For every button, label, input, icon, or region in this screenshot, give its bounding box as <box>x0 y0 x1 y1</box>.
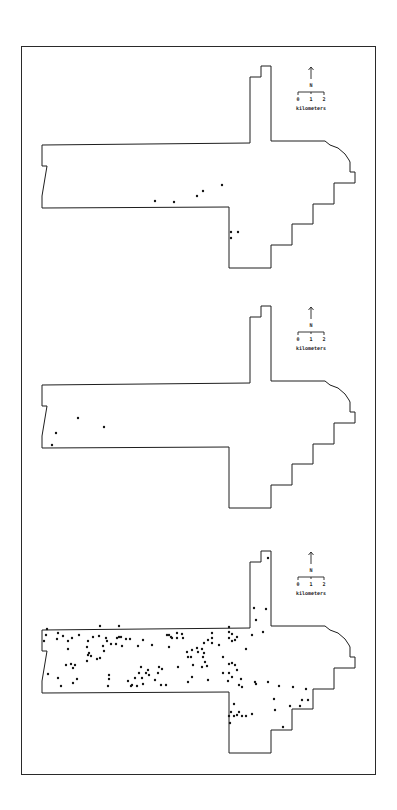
site-dot <box>57 632 59 634</box>
site-dot <box>201 648 203 650</box>
site-dot <box>177 666 179 668</box>
north-arrow-icon <box>309 307 314 319</box>
site-dot <box>222 672 224 674</box>
site-dot <box>201 666 203 668</box>
north-arrow-icon <box>309 552 314 564</box>
north-label: N <box>309 567 312 573</box>
site-dot <box>151 644 153 646</box>
site-dot <box>70 663 72 665</box>
study-area-boundary <box>42 66 355 268</box>
site-dot <box>251 634 253 636</box>
site-dot <box>241 715 243 717</box>
site-dot <box>99 657 101 659</box>
site-dot <box>157 672 159 674</box>
site-dot <box>182 637 184 639</box>
study-area-boundary <box>42 306 355 508</box>
site-dot <box>191 676 193 678</box>
site-points <box>51 417 105 446</box>
site-dot <box>245 715 247 717</box>
site-dot <box>301 699 303 701</box>
site-dot <box>228 637 230 639</box>
site-dot <box>108 678 110 680</box>
site-dot <box>90 655 92 657</box>
site-dot <box>154 200 156 202</box>
scale-tick-label: 1 <box>309 581 312 587</box>
site-dot <box>234 639 236 641</box>
scale-unit-label: kilometers <box>296 345 326 351</box>
scale-tick-label: 0 <box>296 96 299 102</box>
site-dot <box>138 672 140 674</box>
site-dot <box>140 666 142 668</box>
site-dot <box>196 195 198 197</box>
site-points <box>154 184 239 239</box>
site-dot <box>278 685 280 687</box>
site-dot <box>121 645 123 647</box>
site-dot <box>187 656 189 658</box>
map-legend: N012kilometers <box>296 307 326 351</box>
site-dot <box>71 637 73 639</box>
scale-bar <box>298 92 324 95</box>
site-dot <box>251 713 253 715</box>
map-panel-1: N012kilometers <box>42 66 355 268</box>
site-dot <box>207 639 209 641</box>
site-dot <box>191 649 193 651</box>
site-dot <box>299 705 301 707</box>
site-dot <box>107 685 109 687</box>
site-dot <box>65 664 67 666</box>
site-dot <box>228 715 230 717</box>
site-dot <box>236 714 238 716</box>
site-dot <box>255 619 257 621</box>
site-dot <box>305 688 307 690</box>
site-dot <box>67 640 69 642</box>
site-dot <box>234 664 236 666</box>
site-dot <box>142 683 144 685</box>
site-dot <box>115 643 117 645</box>
site-dot <box>176 637 178 639</box>
site-dot <box>43 640 45 642</box>
site-dot <box>202 656 204 658</box>
site-dot <box>51 444 53 446</box>
site-dot <box>131 684 133 686</box>
site-dot <box>176 632 178 634</box>
site-dot <box>173 201 175 203</box>
site-dot <box>236 636 238 638</box>
site-dot <box>231 662 233 664</box>
site-dot <box>267 557 269 559</box>
site-dot <box>273 698 275 700</box>
site-dot <box>289 705 291 707</box>
scale-tick-label: 2 <box>322 336 325 342</box>
site-dot <box>197 651 199 653</box>
site-dot <box>230 231 232 233</box>
site-dot <box>171 637 173 639</box>
site-dot <box>145 672 147 674</box>
site-dot <box>47 673 49 675</box>
site-dot <box>192 664 194 666</box>
site-dot <box>72 682 74 684</box>
site-dot <box>228 631 230 633</box>
site-dot <box>168 646 170 648</box>
site-dot <box>241 686 243 688</box>
site-dot <box>240 678 242 680</box>
map-panel-2: N012kilometers <box>42 306 355 508</box>
site-dot <box>96 658 98 660</box>
site-dot <box>110 643 112 645</box>
site-dot <box>236 669 238 671</box>
site-dot <box>190 656 192 658</box>
site-dot <box>181 633 183 635</box>
site-dot <box>103 650 105 652</box>
site-dot <box>78 634 80 636</box>
site-dot <box>142 639 144 641</box>
site-dot <box>255 683 257 685</box>
site-dot <box>136 685 138 687</box>
site-dot <box>99 625 101 627</box>
site-dot <box>55 432 57 434</box>
site-dot <box>196 647 198 649</box>
scale-tick-label: 1 <box>309 96 312 102</box>
site-dot <box>57 677 59 679</box>
site-dot <box>92 636 94 638</box>
site-dot <box>56 638 58 640</box>
site-dot <box>233 703 235 705</box>
site-dot <box>106 640 108 642</box>
site-dot <box>204 661 206 663</box>
site-dot <box>267 681 269 683</box>
